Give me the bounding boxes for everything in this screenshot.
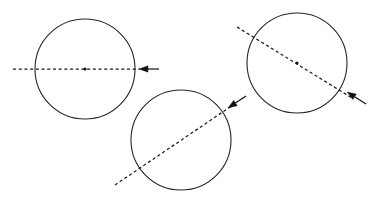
diagram-background — [0, 0, 372, 202]
diagram-canvas — [0, 0, 372, 202]
center-dot — [295, 61, 298, 64]
diagram-svg — [0, 0, 372, 202]
center-dot — [83, 67, 86, 70]
